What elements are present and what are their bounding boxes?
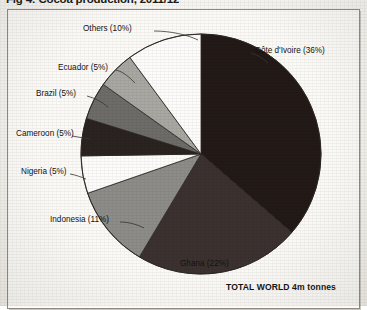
slice-label-ecuador: Ecuador (5%)	[58, 63, 108, 72]
slice-label-others: Others (10%)	[83, 24, 132, 33]
chart-frame: Others (10%) Ecuador (5%) Brazil (5%) Ca…	[7, 9, 360, 309]
total-world-footnote: TOTAL WORLD 4m tonnes	[226, 282, 336, 292]
slice-label-indonesia: Indonesia (11%)	[50, 215, 109, 224]
slice-label-cameroon: Cameroon (5%)	[16, 129, 74, 138]
slice-label-ghana: Ghana (22%)	[180, 259, 229, 268]
pie-chart: Others (10%) Ecuador (5%) Brazil (5%) Ca…	[8, 10, 359, 308]
slice-label-brazil: Brazil (5%)	[36, 89, 76, 98]
figure-title-text: Fig 4: Cocoa production, 2011/12	[6, 0, 179, 5]
slice-label-cote-divoire: Côte d'Ivoire (36%)	[255, 46, 325, 55]
page-title: Fig 4: Cocoa production, 2011/12	[6, 0, 179, 9]
slice-label-nigeria: Nigeria (5%)	[21, 167, 67, 176]
